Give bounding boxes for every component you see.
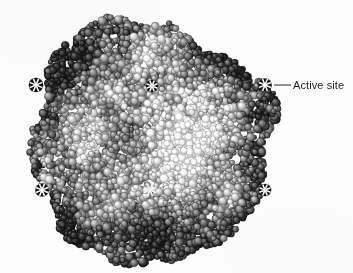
active-site-marker-top-left	[29, 78, 44, 93]
active-site-marker-bottom-right	[259, 184, 272, 197]
marker-hub	[35, 84, 38, 87]
active-site-marker-bottom-left	[35, 183, 49, 197]
active-site-marker-top-center	[146, 80, 159, 93]
active-site-marker-bottom-center	[144, 184, 157, 197]
active-site-callout-label: Active site	[293, 79, 344, 91]
figure-container: Active site	[0, 0, 353, 273]
active-site-marker-top-right	[258, 78, 272, 92]
active-site-marker-group	[29, 78, 272, 197]
marker-hub	[149, 189, 151, 191]
annotation-layer	[0, 0, 353, 273]
marker-hub	[151, 85, 153, 87]
marker-hub	[264, 84, 266, 86]
marker-hub	[41, 189, 43, 191]
marker-hub	[264, 189, 266, 191]
